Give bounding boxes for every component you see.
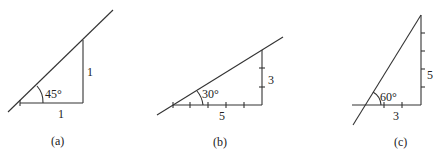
rise-label-c: 5 bbox=[427, 68, 433, 82]
run-label-b: 5 bbox=[219, 109, 225, 123]
angle-arc-a bbox=[37, 86, 43, 103]
rise-ticks-c bbox=[421, 33, 425, 87]
angle-label-b: 30° bbox=[202, 87, 219, 101]
rise-label-b: 3 bbox=[268, 73, 274, 87]
caption-b: (b) bbox=[213, 135, 227, 149]
panel-b: 30° 3 5 (b) bbox=[157, 37, 283, 149]
line-b bbox=[157, 37, 283, 115]
angle-label-c: 60° bbox=[380, 90, 397, 104]
panel-a: 45° 1 1 (a) bbox=[8, 10, 113, 148]
angle-label-a: 45° bbox=[45, 87, 62, 101]
run-label-a: 1 bbox=[58, 107, 64, 121]
panel-c: 60° 5 3 (c) bbox=[352, 15, 433, 149]
run-label-c: 3 bbox=[393, 109, 399, 123]
caption-a: (a) bbox=[51, 134, 64, 148]
rise-label-a: 1 bbox=[87, 65, 93, 79]
line-c bbox=[353, 15, 421, 125]
caption-c: (c) bbox=[394, 135, 407, 149]
slope-triangles-diagram: 45° 1 1 (a) 30° 3 5 (b) bbox=[0, 0, 433, 157]
